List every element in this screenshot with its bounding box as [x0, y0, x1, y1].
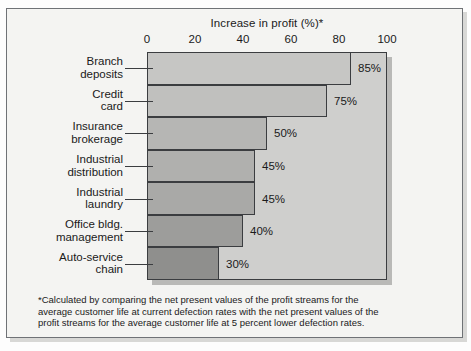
chart-title: Increase in profit (%)* — [147, 17, 387, 29]
bar-value-label: 45% — [262, 160, 285, 172]
bar-value-label: 45% — [262, 193, 285, 205]
bar-row: 50% — [147, 117, 387, 150]
category-label-line: laundry — [76, 198, 123, 211]
footnote-line: average customer life at current defecti… — [38, 306, 430, 318]
leader-line — [125, 264, 153, 265]
category-label: Industrialdistribution — [67, 153, 123, 178]
bar — [147, 150, 255, 183]
bar-value-label: 50% — [274, 127, 297, 139]
bar — [147, 215, 243, 248]
leader-line — [125, 68, 153, 69]
category-label-line: Insurance — [71, 120, 123, 133]
leader-line — [125, 133, 153, 134]
footnote-line: *Calculated by comparing the net present… — [38, 294, 430, 306]
x-tick-label: 20 — [189, 33, 202, 45]
x-tick-label: 0 — [144, 33, 150, 45]
x-axis-tick-labels: 020406080100 — [0, 33, 471, 49]
x-tick-label: 40 — [237, 33, 250, 45]
bar-value-label: 75% — [334, 95, 357, 107]
bar-value-label: 40% — [250, 225, 273, 237]
bar-row: 30% — [147, 247, 387, 280]
exhibit-figure: Increase in profit (%)* 020406080100 85%… — [0, 0, 471, 351]
category-label-line: Office bldg. — [56, 218, 123, 231]
bar-row: 85% — [147, 52, 387, 85]
footnote: *Calculated by comparing the net present… — [38, 294, 430, 329]
category-label-line: Industrial — [76, 186, 123, 199]
category-label: Branchdeposits — [80, 55, 123, 80]
category-label-line: Auto-service — [59, 251, 123, 264]
category-label: Industriallaundry — [76, 186, 123, 211]
x-tick-label: 60 — [285, 33, 298, 45]
x-tick-label: 100 — [377, 33, 396, 45]
category-label: Office bldg.management — [56, 218, 123, 243]
category-label: Insurancebrokerage — [71, 120, 123, 145]
category-label-line: brokerage — [71, 133, 123, 146]
bar — [147, 85, 327, 118]
bar-row: 45% — [147, 150, 387, 183]
bar — [147, 52, 351, 85]
bar-value-label: 30% — [226, 258, 249, 270]
footnote-line: profit streams for the average customer … — [38, 317, 430, 329]
category-label-line: Industrial — [67, 153, 123, 166]
category-label-line: card — [92, 100, 123, 113]
leader-line — [125, 231, 153, 232]
bar — [147, 182, 255, 215]
category-label-line: distribution — [67, 166, 123, 179]
category-label-line: chain — [59, 263, 123, 276]
bar — [147, 117, 267, 150]
category-label-line: Credit — [92, 88, 123, 101]
bar-row: 45% — [147, 182, 387, 215]
category-label: Auto-servicechain — [59, 251, 123, 276]
category-label-line: deposits — [80, 68, 123, 81]
leader-line — [125, 166, 153, 167]
x-tick-label: 80 — [333, 33, 346, 45]
leader-line — [125, 199, 153, 200]
category-label-line: Branch — [80, 55, 123, 68]
bar-value-label: 85% — [358, 62, 381, 74]
leader-line — [125, 101, 153, 102]
bar-row: 75% — [147, 85, 387, 118]
category-label: Creditcard — [92, 88, 123, 113]
category-label-line: management — [56, 231, 123, 244]
bar — [147, 247, 219, 280]
bar-row: 40% — [147, 215, 387, 248]
